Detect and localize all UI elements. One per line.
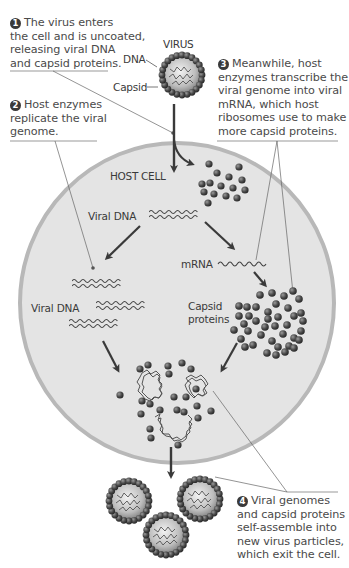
step-1-callout: 1The virus enters the cell and is uncoat…: [10, 16, 145, 70]
new-virus-particle-2: [177, 476, 224, 523]
step-2-number-badge: 2: [10, 100, 21, 111]
label-virus: VIRUS: [163, 38, 193, 50]
new-virus-particle-1: [106, 478, 153, 525]
virus-particle-entering: [159, 52, 206, 99]
step-2-callout: 2Host enzymes replicate the viral genome…: [10, 98, 107, 139]
label-capsid-proteins: Capsid proteins: [188, 300, 229, 326]
step-3-callout: 3Meanwhile, host enzymes transcribe the …: [218, 57, 348, 139]
leader-line-4b: [215, 477, 287, 492]
label-viral-dna-top: Viral DNA: [88, 210, 136, 222]
label-mrna: mRNA: [181, 258, 213, 270]
label-capsid-proteins-line1: Capsid: [188, 300, 222, 312]
label-capsid: Capsid: [113, 81, 147, 93]
step-4-callout: 4Viral genomes and capsid proteins self-…: [237, 494, 345, 562]
label-capsid-proteins-line2: proteins: [188, 313, 229, 325]
step-3-number-badge: 3: [218, 59, 229, 70]
new-virus-particle-3: [143, 512, 190, 559]
step-1-number-badge: 1: [10, 18, 21, 29]
label-viral-dna-replicated: Viral DNA: [31, 302, 79, 314]
step-4-number-badge: 4: [237, 496, 248, 507]
label-host-cell: HOST CELL: [110, 170, 166, 182]
